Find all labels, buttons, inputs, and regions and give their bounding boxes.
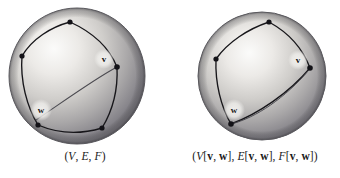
vertex-label-w: w bbox=[38, 105, 45, 115]
vertex-bottom-left-w bbox=[228, 121, 234, 127]
caption-left-close: ) bbox=[102, 150, 106, 162]
caption-right-E: E bbox=[237, 150, 244, 162]
vertex-left bbox=[213, 56, 218, 61]
vertex-top bbox=[67, 19, 72, 24]
caption-right-vb2-close: ], bbox=[269, 150, 279, 162]
sphere-rim-shade bbox=[9, 8, 145, 144]
caption-left-F: F bbox=[95, 150, 102, 162]
sphere-drawing-left: v w bbox=[0, 0, 170, 150]
caption-right-F: F bbox=[279, 150, 286, 162]
sphere-drawing-right: v w bbox=[170, 0, 340, 150]
caption-right-w3: w bbox=[301, 150, 309, 162]
vertex-left bbox=[19, 53, 24, 58]
vertex-bottom-left-w bbox=[35, 122, 40, 127]
figure-two-spheres: v w (V, E, F) bbox=[0, 0, 340, 178]
vertex-label-v: v bbox=[296, 55, 301, 65]
vertex-top bbox=[266, 19, 271, 24]
sphere-stage-right: v w bbox=[170, 0, 340, 150]
caption-right-vb3-close: ]) bbox=[310, 150, 318, 162]
vertex-label-w: w bbox=[231, 105, 238, 115]
caption-right: (V[v, w], E[v, w], F[v, w]) bbox=[170, 150, 340, 162]
panel-contracted-complex: v w (V[v, w], E[v, w], F[v, w]) bbox=[170, 0, 340, 178]
caption-left-E: E bbox=[81, 150, 88, 162]
panel-original-complex: v w (V, E, F) bbox=[0, 0, 170, 178]
caption-right-w1: w bbox=[219, 150, 227, 162]
vertex-label-v: v bbox=[102, 54, 107, 64]
vertex-right-v bbox=[307, 65, 313, 71]
caption-left: (V, E, F) bbox=[0, 150, 170, 162]
vertex-right-v bbox=[114, 64, 120, 70]
sphere-stage-left: v w bbox=[0, 0, 170, 150]
vertex-bottom-right bbox=[99, 125, 104, 130]
sphere-rim-shade bbox=[198, 12, 326, 140]
caption-right-w2: w bbox=[260, 150, 268, 162]
caption-right-vb1-close: ], bbox=[228, 150, 238, 162]
